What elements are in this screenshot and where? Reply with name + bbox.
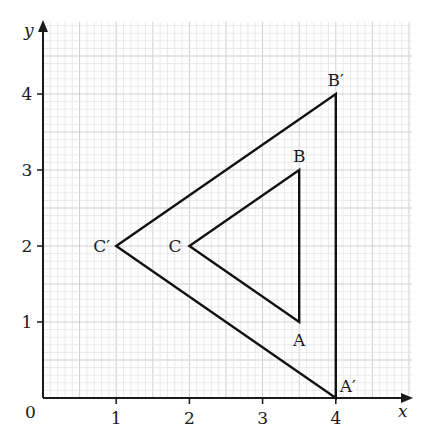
vertex-label-c-prime: C′ <box>93 236 110 256</box>
coordinate-diagram: x y 0 12341234 A B C A′ B′ C′ <box>0 0 423 434</box>
x-tick-label: 4 <box>330 408 341 428</box>
vertex-label-b: B <box>293 146 306 166</box>
x-tick-label: 3 <box>257 408 268 428</box>
y-tick-label: 4 <box>22 84 33 104</box>
vertex-label-c: C <box>168 236 181 256</box>
grid <box>43 22 412 398</box>
axes: x y 0 <box>23 20 413 422</box>
x-tick-label: 1 <box>111 408 122 428</box>
vertex-label-b-prime: B′ <box>328 70 344 90</box>
y-tick-label: 1 <box>22 312 33 332</box>
vertex-label-a-prime: A′ <box>339 376 356 396</box>
y-axis-label: y <box>23 20 34 40</box>
origin-label: 0 <box>25 402 36 422</box>
y-tick-label: 3 <box>22 160 33 180</box>
y-tick-label: 2 <box>22 236 33 256</box>
x-axis-label: x <box>398 401 408 421</box>
vertex-labels: A B C A′ B′ C′ <box>93 70 356 396</box>
x-tick-label: 2 <box>184 408 195 428</box>
ticks: 12341234 <box>22 84 342 428</box>
vertex-label-a: A <box>292 330 306 350</box>
